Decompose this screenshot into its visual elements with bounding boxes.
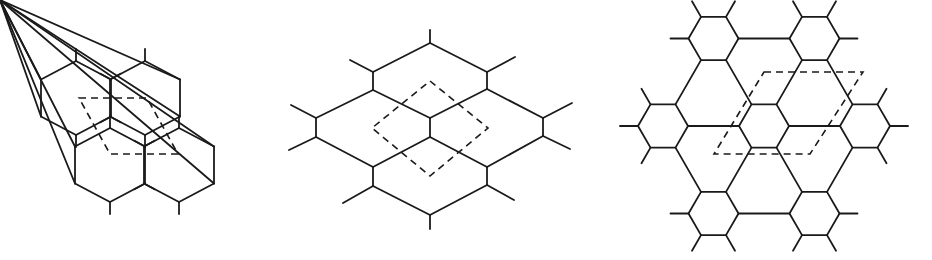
rhombic-bond (373, 90, 430, 118)
dangling-bond (350, 60, 373, 72)
small-hexagon (638, 104, 688, 147)
intercell-bond (676, 148, 702, 192)
dangling-bond (110, 117, 121, 123)
small-hexagon (840, 104, 890, 147)
honeycomb-bond (41, 117, 76, 136)
honeycomb-bond (75, 184, 110, 203)
small-hexagon (689, 17, 739, 60)
intercell-bond (726, 60, 752, 104)
dangling-bond (692, 1, 701, 17)
dangling-bond (291, 105, 316, 118)
honeycomb-bond (179, 184, 214, 203)
dangling-bond (289, 137, 316, 150)
rhombic-bond (316, 90, 373, 118)
dangling-bond (134, 141, 145, 147)
small-hexagon (790, 192, 840, 235)
dangling-bond (642, 89, 651, 105)
dangling-bond (543, 136, 570, 149)
dangling-bond (0, 0, 75, 147)
dangling-bond (827, 1, 836, 17)
honeycomb-bond (41, 61, 76, 80)
rhombic-lattice (289, 30, 572, 229)
rhombic-bond (430, 185, 487, 215)
rhombic-bond (316, 137, 373, 167)
dangling-bond (726, 1, 735, 17)
dangling-bond (343, 186, 373, 203)
honeycomb-lattice (0, 0, 214, 214)
intercell-bond (827, 148, 853, 192)
dangling-bond (487, 185, 514, 200)
dangling-bond (793, 235, 802, 251)
dangling-bond (827, 235, 836, 251)
dangling-bond (543, 103, 572, 118)
dangling-bond (878, 148, 887, 164)
small-hexagon (689, 192, 739, 235)
honeycomb-bond (75, 128, 110, 147)
dangling-bond (0, 0, 214, 147)
rhombic-bond (373, 137, 430, 167)
rhombic-bond (430, 43, 487, 72)
dangling-bond (144, 184, 155, 190)
dangling-bond (878, 89, 887, 105)
dangling-bond (642, 148, 651, 164)
star-lattice (620, 1, 908, 250)
rhombic-bond (487, 136, 543, 167)
small-hexagon (790, 17, 840, 60)
rhombic-bond (487, 89, 543, 118)
rhombic-bond (373, 186, 430, 215)
intercell-bond (676, 60, 702, 104)
dangling-bond (726, 235, 735, 251)
rhombic-bond (373, 43, 430, 72)
dangling-bond (487, 57, 515, 72)
dangling-bond (134, 184, 145, 190)
small-hexagon (739, 104, 789, 147)
dangling-bond (692, 235, 701, 251)
intercell-bond (777, 60, 803, 104)
lattice-figure (0, 0, 932, 260)
dangling-bond (793, 1, 802, 17)
intercell-bond (827, 60, 853, 104)
